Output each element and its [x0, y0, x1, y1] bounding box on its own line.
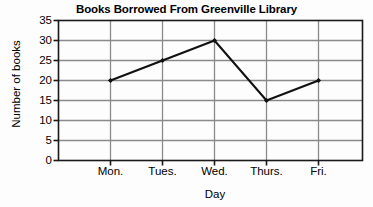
axis-tick-marks [54, 21, 319, 166]
x-axis-tick-label: Fri. [287, 164, 351, 178]
horizontal-gridlines [59, 41, 363, 141]
x-axis-tick-labels: Mon.Tues.Wed.Thurs.Fri. [0, 164, 373, 180]
x-axis-title: Day [110, 188, 320, 201]
chart-container: Books Borrowed From Greenville Library N… [0, 0, 373, 207]
